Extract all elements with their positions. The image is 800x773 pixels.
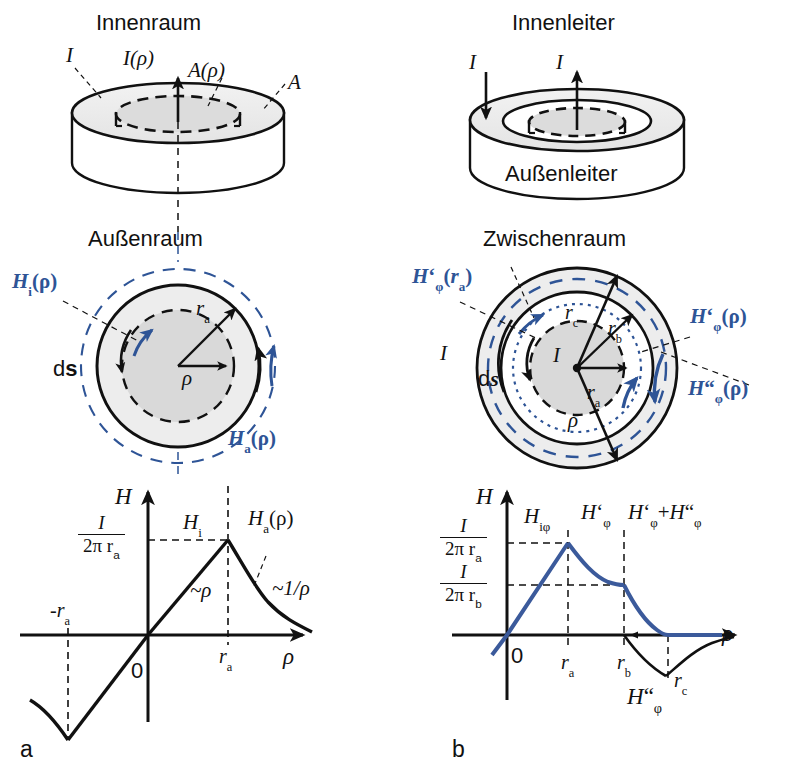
panel-a-cylinder [72, 68, 285, 232]
panel-b-plot-x-tick-rb: rb [617, 652, 631, 676]
figure-root: Innenraum I I(ρ) A(ρ) A Außenraum Hi(ρ) … [0, 0, 800, 773]
panel-b-cylinder [470, 72, 684, 236]
caption-a: a [20, 738, 33, 761]
panel-a-plot-decay-note: ~1/ρ [272, 578, 310, 599]
panel-a-plot-x-label: ρ [283, 645, 294, 668]
panel-a-plot-curve-outer-label: Ha(ρ) [248, 508, 293, 532]
panel-b-label-ra: ra [587, 382, 600, 406]
panel-b-label-I-left: I [440, 343, 447, 364]
panel-a-plot-x-tick-pos: ra [219, 646, 232, 670]
panel-b-plot-x-tick-rc: rc [674, 670, 687, 694]
panel-b-label-Hphi-ra: H‘φ(ra) [412, 266, 472, 290]
panel-b-title-zwischenraum: Zwischenraum [483, 228, 626, 250]
panel-b-plot-x-label: ρ [722, 622, 733, 645]
panel-b-cross-section [460, 267, 749, 468]
panel-a-label-ra: ra [196, 298, 210, 322]
panel-b-label-rc: rc [565, 302, 578, 326]
panel-a-plot-curve-inner-label: Hi [183, 512, 202, 536]
panel-a-label-ds: ds [53, 358, 78, 380]
panel-b-plot-y-tick2: I 2π rb [440, 562, 487, 608]
panel-b-plot-y-tick1: I 2π ra [440, 516, 487, 562]
panel-a-plot-x-tick-neg: -ra [50, 600, 70, 624]
figure-artwork [0, 0, 800, 773]
panel-b-plot-region3: H‘φ+H“φ [628, 502, 702, 526]
panel-b-label-Hphi-prime: H‘φ(ρ) [690, 306, 747, 330]
panel-b-label-ds: ds [478, 368, 499, 390]
panel-a-label-H-a: Ha(ρ) [228, 428, 276, 452]
panel-a-title-aussenraum: Außenraum [88, 228, 203, 250]
panel-a-label-I: I [66, 45, 73, 66]
panel-b-plot-region1: Hiφ [524, 506, 550, 530]
panel-a-plot-slope-note: ~ρ [190, 580, 211, 601]
panel-b-plot-y-label: H [476, 485, 493, 508]
panel-a-label-I-rho: I(ρ) [123, 48, 154, 69]
panel-a-plot-y-tick-value: I 2π ra [78, 513, 125, 559]
panel-a-plot-origin: 0 [131, 660, 143, 682]
panel-b-label-Hphi-dprime: H“φ(ρ) [688, 378, 748, 402]
panel-b-label-I-center: I [553, 345, 560, 366]
panel-a-label-H-i: Hi(ρ) [12, 271, 57, 295]
panel-a-plot-y-label: H [115, 485, 132, 508]
panel-a-label-A: A [288, 72, 301, 93]
panel-a-label-rho: ρ [182, 368, 192, 389]
panel-b-plot-origin: 0 [511, 645, 523, 667]
panel-b-label-rho: ρ [568, 410, 578, 431]
panel-b-plot-x-tick-ra: ra [561, 652, 574, 676]
panel-b-label-I-up: I [556, 52, 563, 73]
panel-b-title-aussenleiter: Außenleiter [505, 163, 618, 185]
caption-b: b [452, 738, 465, 761]
panel-b-title-innenleiter: Innenleiter [512, 12, 615, 34]
panel-b-label-I-down: I [469, 52, 476, 73]
panel-a-label-A-rho: A(ρ) [188, 60, 225, 81]
panel-b-plot-below-label: H“φ [627, 685, 662, 712]
panel-b-plot-region2: H‘φ [581, 502, 611, 526]
panel-a-title-innenraum: Innenraum [96, 12, 201, 34]
panel-b-label-rb: rb [608, 318, 622, 342]
